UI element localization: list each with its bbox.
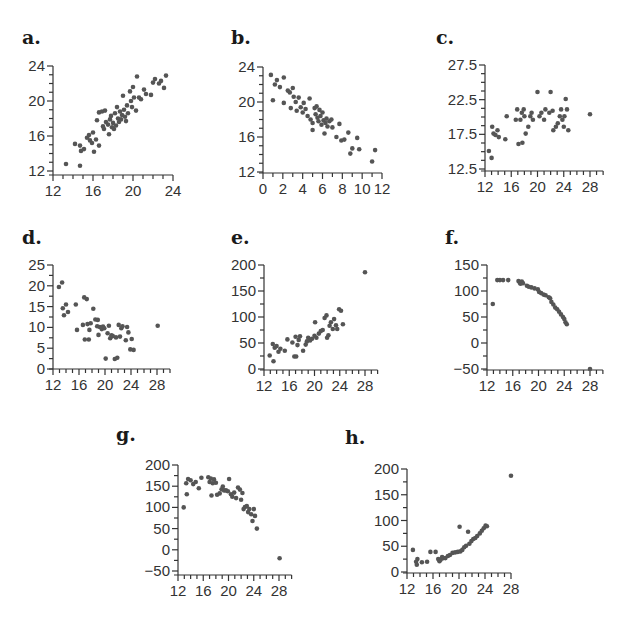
data-point — [348, 151, 353, 156]
data-point — [250, 519, 255, 524]
x-tick-label: 12 — [45, 376, 62, 393]
data-point — [331, 327, 336, 332]
x-tick-label: 24 — [123, 376, 140, 393]
y-tick-label: 100 — [454, 282, 479, 299]
y-tick-label: 20 — [28, 277, 45, 294]
data-point — [209, 493, 214, 498]
data-point — [115, 105, 120, 110]
x-tick-label: 8 — [338, 180, 346, 197]
data-point — [64, 162, 69, 167]
y-tick-label: 17.5 — [448, 125, 477, 142]
data-point — [521, 107, 526, 112]
x-tick-label: 20 — [529, 178, 546, 195]
x-tick-label: 24 — [477, 580, 494, 597]
data-point — [271, 98, 276, 103]
data-point — [428, 550, 433, 555]
x-tick-label: 28 — [582, 377, 599, 394]
data-point — [346, 130, 351, 135]
data-point — [539, 111, 544, 116]
data-point — [504, 114, 509, 119]
scatter-panel-e: e.0501001502001216202428 — [231, 226, 378, 394]
y-tick-label: 27.5 — [448, 56, 477, 73]
data-point — [296, 95, 301, 100]
x-tick-label: 12 — [479, 377, 496, 394]
data-point — [295, 343, 300, 348]
data-point — [162, 86, 167, 91]
data-point — [370, 159, 375, 164]
data-point — [411, 548, 416, 553]
data-point — [548, 90, 553, 95]
data-point — [322, 131, 327, 136]
data-point — [91, 130, 96, 135]
x-tick-label: 20 — [451, 580, 468, 597]
data-point — [520, 140, 525, 145]
data-point — [314, 336, 319, 341]
scatter-panel-a: a.1216202412162024 — [22, 26, 181, 199]
data-point — [278, 346, 283, 351]
data-point — [320, 328, 325, 333]
data-point — [113, 111, 118, 116]
data-point — [363, 270, 368, 275]
data-point — [288, 90, 293, 95]
data-point — [120, 324, 125, 329]
data-point — [164, 73, 169, 78]
data-point — [542, 118, 547, 123]
data-point — [485, 524, 490, 529]
x-tick-label: 20 — [125, 182, 142, 199]
scatter-panel-d: d.05101520251216202428 — [22, 226, 170, 393]
y-tick-label: 150 — [374, 486, 399, 503]
data-point — [107, 323, 112, 328]
x-tick-label: 6 — [318, 180, 326, 197]
data-point — [277, 556, 282, 561]
x-tick-label: 16 — [195, 582, 212, 599]
x-tick-label: 24 — [556, 377, 573, 394]
data-point — [102, 127, 107, 132]
data-point — [324, 313, 329, 318]
data-point — [103, 108, 108, 113]
data-point — [74, 302, 79, 307]
data-point — [126, 330, 131, 335]
x-tick-label: 12 — [374, 180, 391, 197]
x-tick-label: 24 — [555, 178, 572, 195]
data-point — [131, 348, 136, 353]
data-point — [66, 310, 71, 315]
panel-label-d: d. — [22, 226, 42, 248]
data-point — [87, 133, 92, 138]
data-point — [252, 507, 257, 512]
data-point — [144, 92, 149, 97]
y-tick-label: 24 — [238, 58, 255, 75]
data-point — [57, 285, 62, 290]
y-tick-label: 50 — [462, 308, 479, 325]
data-point — [319, 123, 324, 128]
data-point — [350, 146, 355, 151]
data-point — [214, 481, 219, 486]
y-tick-label: 50 — [153, 520, 170, 537]
data-point — [247, 507, 252, 512]
data-point — [73, 142, 78, 147]
data-point — [78, 143, 83, 148]
data-point — [87, 328, 92, 333]
y-tick-label: 150 — [145, 477, 170, 494]
y-tick-label: 22.5 — [448, 91, 477, 108]
data-point — [114, 335, 119, 340]
data-point — [94, 137, 99, 142]
data-point — [334, 135, 339, 140]
x-tick-label: 20 — [306, 377, 323, 394]
data-point — [269, 73, 274, 78]
scatter-panel-c: c.12.517.522.527.51216202428 — [436, 26, 603, 195]
y-tick-label: 16 — [238, 128, 255, 145]
data-point — [82, 147, 87, 152]
data-point — [283, 349, 288, 354]
data-point — [316, 119, 321, 124]
y-tick-label: 20 — [238, 93, 255, 110]
data-point — [489, 156, 494, 161]
y-tick-label: 12 — [238, 163, 255, 180]
data-point — [126, 111, 131, 116]
data-point — [107, 132, 112, 137]
y-tick-label: 100 — [374, 512, 399, 529]
data-point — [105, 331, 110, 336]
data-point — [326, 333, 331, 338]
data-point — [119, 117, 124, 122]
data-point — [535, 90, 540, 95]
data-point — [78, 164, 83, 169]
